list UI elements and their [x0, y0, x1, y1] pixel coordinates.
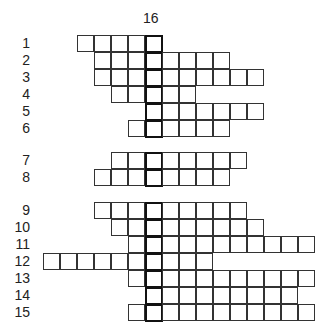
crossword-cell[interactable]: [128, 52, 145, 69]
crossword-cell[interactable]: [196, 219, 213, 236]
crossword-cell[interactable]: [145, 86, 162, 103]
crossword-cell[interactable]: [145, 52, 162, 69]
crossword-cell[interactable]: [196, 253, 213, 270]
crossword-cell[interactable]: [281, 287, 298, 304]
crossword-cell[interactable]: [128, 35, 145, 52]
crossword-cell[interactable]: [247, 304, 264, 321]
crossword-cell[interactable]: [196, 270, 213, 287]
crossword-cell[interactable]: [145, 69, 162, 86]
crossword-cell[interactable]: [128, 270, 145, 287]
crossword-cell[interactable]: [145, 270, 162, 287]
crossword-cell[interactable]: [179, 169, 196, 186]
crossword-cell[interactable]: [196, 69, 213, 86]
crossword-cell[interactable]: [179, 270, 196, 287]
crossword-cell[interactable]: [213, 270, 230, 287]
crossword-cell[interactable]: [145, 304, 162, 321]
crossword-cell[interactable]: [162, 169, 179, 186]
crossword-cell[interactable]: [298, 236, 315, 253]
crossword-cell[interactable]: [128, 120, 145, 137]
crossword-cell[interactable]: [179, 202, 196, 219]
crossword-cell[interactable]: [179, 287, 196, 304]
crossword-cell[interactable]: [111, 219, 128, 236]
crossword-cell[interactable]: [145, 236, 162, 253]
crossword-cell[interactable]: [128, 219, 145, 236]
crossword-cell[interactable]: [77, 253, 94, 270]
crossword-cell[interactable]: [179, 304, 196, 321]
crossword-cell[interactable]: [196, 120, 213, 137]
crossword-cell[interactable]: [111, 169, 128, 186]
crossword-cell[interactable]: [162, 120, 179, 137]
crossword-cell[interactable]: [196, 52, 213, 69]
crossword-cell[interactable]: [247, 270, 264, 287]
crossword-cell[interactable]: [213, 152, 230, 169]
crossword-cell[interactable]: [145, 169, 162, 186]
crossword-cell[interactable]: [128, 236, 145, 253]
crossword-cell[interactable]: [213, 287, 230, 304]
crossword-cell[interactable]: [281, 236, 298, 253]
crossword-cell[interactable]: [196, 304, 213, 321]
crossword-cell[interactable]: [213, 219, 230, 236]
crossword-cell[interactable]: [264, 236, 281, 253]
crossword-cell[interactable]: [179, 52, 196, 69]
crossword-cell[interactable]: [179, 253, 196, 270]
crossword-cell[interactable]: [94, 253, 111, 270]
crossword-cell[interactable]: [213, 69, 230, 86]
crossword-cell[interactable]: [196, 152, 213, 169]
crossword-cell[interactable]: [94, 69, 111, 86]
crossword-cell[interactable]: [145, 103, 162, 120]
crossword-cell[interactable]: [179, 86, 196, 103]
crossword-cell[interactable]: [213, 236, 230, 253]
crossword-cell[interactable]: [111, 35, 128, 52]
crossword-cell[interactable]: [196, 236, 213, 253]
crossword-cell[interactable]: [162, 287, 179, 304]
crossword-cell[interactable]: [196, 103, 213, 120]
crossword-cell[interactable]: [230, 219, 247, 236]
crossword-cell[interactable]: [179, 69, 196, 86]
crossword-cell[interactable]: [264, 270, 281, 287]
crossword-cell[interactable]: [247, 219, 264, 236]
crossword-cell[interactable]: [145, 202, 162, 219]
crossword-cell[interactable]: [111, 253, 128, 270]
crossword-cell[interactable]: [111, 69, 128, 86]
crossword-cell[interactable]: [230, 270, 247, 287]
crossword-cell[interactable]: [230, 152, 247, 169]
crossword-cell[interactable]: [145, 253, 162, 270]
crossword-cell[interactable]: [128, 169, 145, 186]
crossword-cell[interactable]: [196, 287, 213, 304]
crossword-cell[interactable]: [247, 287, 264, 304]
crossword-cell[interactable]: [162, 86, 179, 103]
crossword-cell[interactable]: [162, 152, 179, 169]
crossword-cell[interactable]: [94, 35, 111, 52]
crossword-cell[interactable]: [111, 202, 128, 219]
crossword-cell[interactable]: [281, 304, 298, 321]
crossword-cell[interactable]: [111, 86, 128, 103]
crossword-cell[interactable]: [145, 152, 162, 169]
crossword-cell[interactable]: [179, 152, 196, 169]
crossword-cell[interactable]: [111, 52, 128, 69]
crossword-cell[interactable]: [213, 202, 230, 219]
crossword-cell[interactable]: [162, 253, 179, 270]
crossword-cell[interactable]: [230, 202, 247, 219]
crossword-cell[interactable]: [60, 253, 77, 270]
crossword-cell[interactable]: [230, 69, 247, 86]
crossword-cell[interactable]: [128, 253, 145, 270]
crossword-cell[interactable]: [128, 69, 145, 86]
crossword-cell[interactable]: [145, 35, 162, 52]
crossword-cell[interactable]: [94, 169, 111, 186]
crossword-cell[interactable]: [298, 304, 315, 321]
crossword-cell[interactable]: [145, 219, 162, 236]
crossword-cell[interactable]: [145, 120, 162, 137]
crossword-cell[interactable]: [264, 304, 281, 321]
crossword-cell[interactable]: [145, 287, 162, 304]
crossword-cell[interactable]: [77, 35, 94, 52]
crossword-cell[interactable]: [162, 202, 179, 219]
crossword-cell[interactable]: [213, 169, 230, 186]
crossword-cell[interactable]: [94, 52, 111, 69]
crossword-cell[interactable]: [162, 236, 179, 253]
crossword-cell[interactable]: [162, 103, 179, 120]
crossword-cell[interactable]: [213, 120, 230, 137]
crossword-cell[interactable]: [230, 304, 247, 321]
crossword-cell[interactable]: [281, 270, 298, 287]
crossword-cell[interactable]: [128, 304, 145, 321]
crossword-cell[interactable]: [264, 287, 281, 304]
